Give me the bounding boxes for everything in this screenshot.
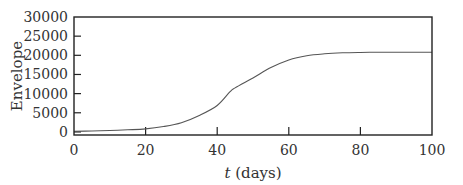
- x-tick-label: 0: [70, 142, 79, 158]
- x-tick-label: 40: [208, 142, 226, 158]
- y-tick-label: 20000: [23, 47, 68, 63]
- x-axis-unit: (days): [230, 164, 281, 182]
- x-tick-label: 60: [280, 142, 298, 158]
- y-tick-label: 10000: [23, 86, 68, 102]
- y-tick-label: 25000: [23, 28, 68, 44]
- y-tick-label: 5000: [32, 105, 68, 121]
- y-tick-label: 15000: [23, 66, 68, 82]
- envelope-line-chart: Envelope t (days) 0500010000150002000025…: [0, 0, 463, 185]
- x-axis-title: t (days): [224, 164, 281, 182]
- y-axis-ticks: 050001000015000200002500030000: [23, 9, 81, 140]
- envelope-series-line: [74, 52, 432, 131]
- y-tick-label: 30000: [23, 9, 68, 25]
- x-tick-label: 80: [351, 142, 369, 158]
- x-tick-label: 20: [137, 142, 155, 158]
- plot-frame: [74, 17, 432, 135]
- x-tick-label: 100: [419, 142, 446, 158]
- y-tick-label: 0: [59, 124, 68, 140]
- x-axis-ticks: 020406080100: [70, 127, 446, 158]
